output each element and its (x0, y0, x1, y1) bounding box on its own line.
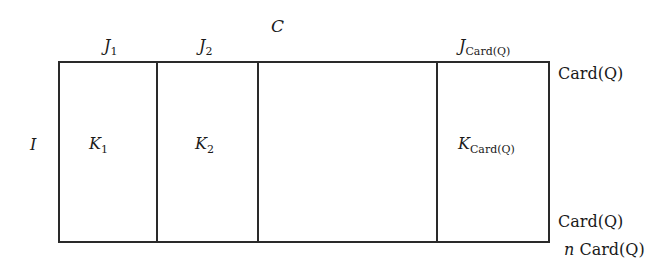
right-label-bottom-upper: Card(Q) (558, 214, 623, 230)
column-header-j2: J2 (199, 38, 212, 54)
n-prefix: n (564, 240, 574, 259)
header-sub: Card(Q) (465, 45, 510, 58)
header-sub: 1 (110, 45, 117, 58)
cell-label-k1: K1 (89, 136, 108, 152)
cell-base: K (195, 134, 207, 153)
cell-sub: Card(Q) (470, 143, 515, 156)
cell-base: K (89, 134, 101, 153)
n-card-text: Card(Q) (579, 240, 644, 259)
column-header-jcard: JCard(Q) (459, 38, 510, 54)
right-label-bottom-lower: n Card(Q) (564, 242, 645, 258)
column-divider-2 (257, 61, 259, 243)
diagram-title-c: C (271, 18, 284, 35)
column-header-j1: J1 (104, 38, 117, 54)
column-divider-1 (156, 61, 158, 243)
column-divider-3 (436, 61, 438, 243)
header-sub: 2 (205, 45, 212, 58)
row-label-i: I (30, 137, 36, 153)
cell-label-kcard: KCard(Q) (458, 136, 515, 152)
right-label-top: Card(Q) (558, 66, 623, 82)
cell-label-k2: K2 (195, 136, 214, 152)
cell-base: K (458, 134, 470, 153)
cell-sub: 1 (101, 143, 108, 156)
cell-sub: 2 (207, 143, 214, 156)
partition-diagram: C J1 J2 JCard(Q) I K1 K2 KCard(Q) Card(Q… (0, 0, 667, 276)
